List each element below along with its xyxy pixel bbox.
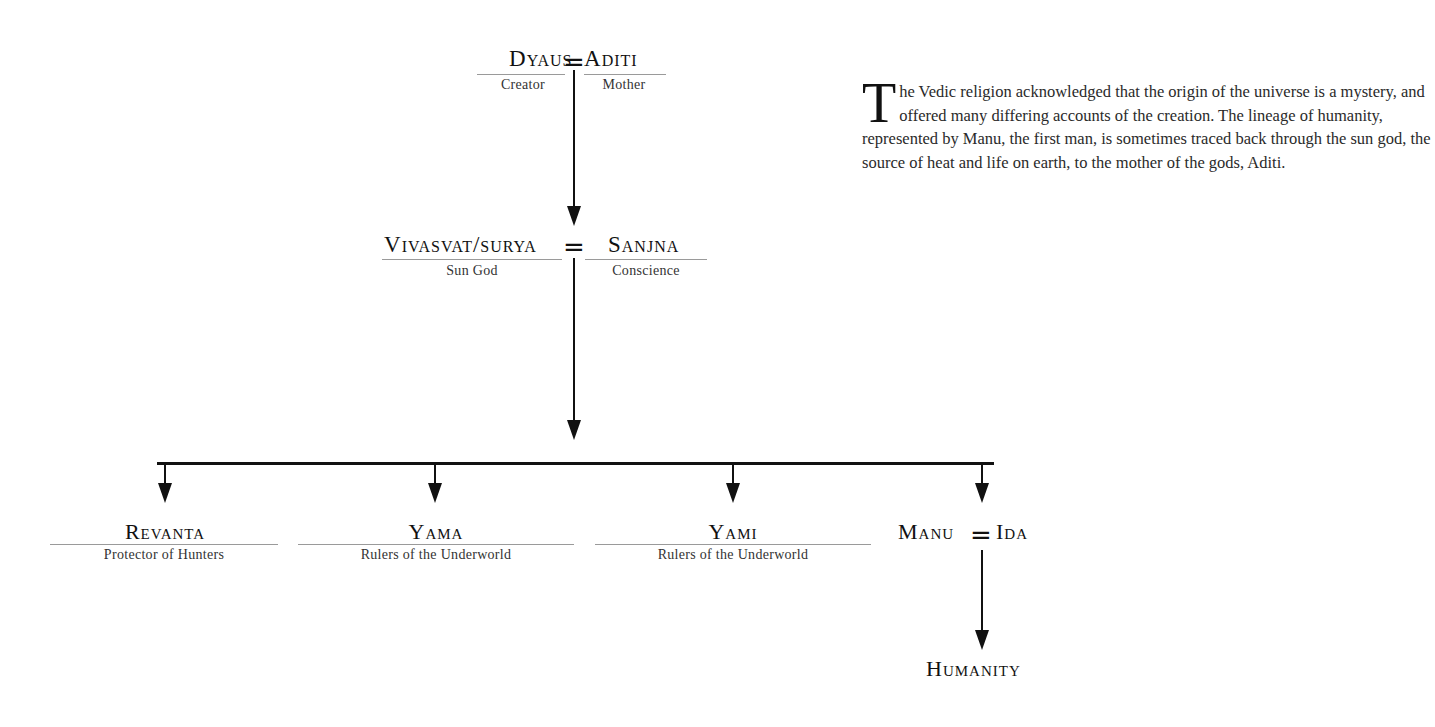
marriage-equals: =: [563, 52, 585, 72]
descent-line: [573, 70, 575, 210]
divider: [595, 544, 871, 545]
divider: [298, 544, 574, 545]
divider: [382, 259, 562, 260]
arrow-down-icon: [726, 483, 740, 503]
role-creator: Creator: [481, 77, 565, 93]
role-mother: Mother: [584, 77, 664, 93]
arrow-down-icon: [158, 483, 172, 503]
child-drop-line: [164, 463, 166, 485]
node-sanjna: Sanjna: [608, 234, 679, 256]
drop-cap: T: [862, 82, 896, 124]
role-protector-of-hunters: Protector of Hunters: [50, 547, 278, 563]
node-yama: Yama: [298, 521, 574, 543]
node-humanity: Humanity: [926, 658, 1021, 680]
node-aditi: Aditi: [584, 48, 638, 70]
arrow-down-icon: [567, 206, 581, 226]
divider: [585, 259, 707, 260]
child-drop-line: [981, 463, 983, 485]
arrow-down-icon: [975, 483, 989, 503]
divider: [584, 74, 666, 75]
divider: [50, 544, 278, 545]
marriage-equals: =: [563, 237, 585, 257]
descent-line: [981, 550, 983, 632]
child-drop-line: [434, 463, 436, 485]
role-rulers-of-underworld: Rulers of the Underworld: [595, 547, 871, 563]
node-yami: Yami: [595, 521, 871, 543]
node-revanta: Revanta: [50, 521, 280, 543]
intro-paragraph: T he Vedic religion acknowledged that th…: [862, 80, 1434, 174]
node-ida: Ida: [996, 521, 1028, 543]
role-rulers-of-underworld: Rulers of the Underworld: [298, 547, 574, 563]
child-drop-line: [732, 463, 734, 485]
descent-line: [573, 258, 575, 422]
paragraph-text: he Vedic religion acknowledged that the …: [862, 82, 1431, 172]
node-vivasvat-surya: Vivasvat/Surya: [384, 234, 537, 256]
divider: [477, 74, 565, 75]
marriage-equals: =: [970, 525, 992, 545]
arrow-down-icon: [567, 420, 581, 440]
role-sun-god: Sun God: [382, 263, 562, 279]
arrow-down-icon: [975, 630, 989, 650]
arrow-down-icon: [428, 483, 442, 503]
role-conscience: Conscience: [585, 263, 707, 279]
node-manu: Manu: [898, 521, 954, 543]
sibling-bar: [157, 462, 994, 465]
